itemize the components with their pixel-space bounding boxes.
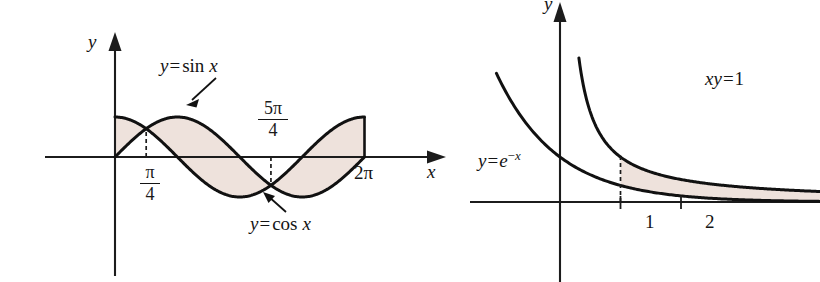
exp-label-exponent-var: x (515, 148, 521, 163)
right-hyperbola-curve (579, 58, 820, 192)
exp-label-exponent: −x (508, 148, 521, 163)
tick-label-2pi: 2π (354, 163, 373, 182)
hyperbola-equation-label: xy=1 (705, 69, 744, 88)
five-pi-over-4-denominator: 4 (254, 120, 292, 140)
figure-root: y x y=sinx y=cosx π 4 5π 4 2π (0, 0, 820, 282)
exp-label-exponent-sign: − (508, 148, 515, 163)
cos-label-fn: cos (271, 213, 297, 234)
right-y-axis-label: y (544, 0, 552, 13)
exponential-equation-label: y=e−x (478, 150, 521, 170)
right-figure-svg (470, 0, 820, 282)
left-x-axis-label: x (427, 162, 435, 181)
right-tick-label-2: 2 (705, 212, 715, 231)
sin-label-fn: sin (181, 55, 204, 76)
right-figure-panel: y y=e−x xy=1 1 2 (470, 0, 820, 282)
left-y-axis-arrowhead (109, 32, 122, 51)
right-tick-label-1: 1 (645, 212, 655, 231)
pi-over-4-denominator: 4 (136, 184, 164, 204)
left-figure-panel: y x y=sinx y=cosx π 4 5π 4 2π (0, 0, 470, 282)
left-sin-pointer-line (192, 78, 216, 100)
sin-equation-label: y=sinx (160, 56, 218, 75)
left-figure-svg (0, 0, 470, 282)
sin-label-arg: x (209, 55, 217, 76)
hyperbola-label-eq: = (722, 68, 735, 89)
cos-equation-label: y=cosx (250, 214, 311, 233)
hyperbola-label-lhs: xy (705, 68, 722, 89)
sin-label-eq: = (168, 55, 181, 76)
right-shaded-region (621, 157, 820, 201)
tick-label-pi-over-4: π 4 (136, 163, 164, 204)
hyperbola-label-rhs: 1 (735, 68, 745, 89)
exp-label-eq: = (486, 150, 499, 171)
cos-label-eq: = (258, 213, 271, 234)
tick-label-5pi-over-4: 5π 4 (254, 99, 292, 140)
exp-label-base: e (499, 150, 507, 171)
cos-label-arg: x (302, 213, 310, 234)
left-y-axis-label: y (88, 32, 96, 51)
five-pi-over-4-numerator: 5π (254, 99, 292, 119)
right-y-axis-arrowhead (554, 2, 567, 22)
pi-over-4-numerator: π (136, 163, 164, 183)
